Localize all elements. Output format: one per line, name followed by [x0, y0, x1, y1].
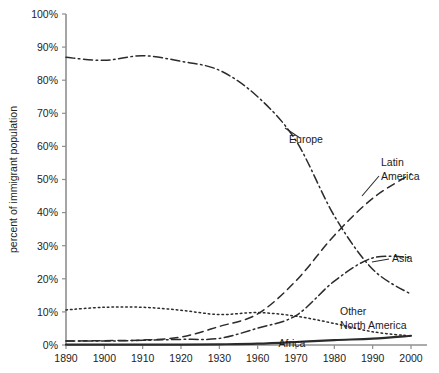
other-north-america-label: Other	[340, 305, 367, 317]
x-tick-label: 2000	[399, 352, 423, 364]
y-tick-label: 60%	[37, 140, 58, 152]
y-tick-label: 90%	[37, 41, 58, 53]
x-axis: 1890190019101920193019601970198019902000	[54, 345, 427, 364]
y-tick-label: 70%	[37, 107, 58, 119]
y-tick-label: 40%	[37, 206, 58, 218]
x-tick-label: 1960	[246, 352, 270, 364]
y-tick-label: 20%	[37, 273, 58, 285]
y-tick-label: 100%	[31, 8, 58, 20]
x-tick-label: 1910	[131, 352, 155, 364]
chart-canvas: 0%10%20%30%40%50%60%70%80%90%100% 189019…	[0, 0, 439, 373]
x-tick-label: 1980	[323, 352, 347, 364]
y-axis: 0%10%20%30%40%50%60%70%80%90%100%	[31, 8, 66, 351]
x-tick-label: 1990	[361, 352, 385, 364]
axis-titles: percent of immigrant population	[7, 106, 19, 253]
asia-label: Asia	[392, 252, 413, 264]
europe-label: Europe	[289, 133, 323, 145]
y-tick-label: 30%	[37, 240, 58, 252]
x-tick-label: 1970	[284, 352, 308, 364]
y-tick-label: 10%	[37, 306, 58, 318]
y-axis-title: percent of immigrant population	[7, 106, 19, 253]
leader-line	[362, 176, 379, 196]
y-tick-label: 0%	[43, 339, 58, 351]
x-tick-label: 1890	[54, 352, 78, 364]
immigrant-population-line-chart: 0%10%20%30%40%50%60%70%80%90%100% 189019…	[0, 0, 439, 373]
latin-america-label: Latin	[381, 156, 404, 168]
series-lines	[66, 56, 411, 345]
x-tick-label: 1930	[208, 352, 232, 364]
latin-america-label-2: America	[381, 170, 420, 182]
y-tick-label: 80%	[37, 74, 58, 86]
x-tick-label: 1900	[93, 352, 117, 364]
x-tick-label: 1920	[169, 352, 193, 364]
series-line-europe	[66, 56, 411, 295]
africa-label: Africa	[279, 337, 306, 349]
leader-line	[372, 259, 389, 262]
y-tick-label: 50%	[37, 173, 58, 185]
other-north-america-label-2: North America	[340, 319, 407, 331]
